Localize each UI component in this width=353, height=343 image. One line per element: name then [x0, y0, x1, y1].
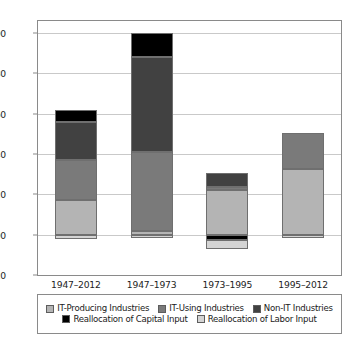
bar-group	[206, 21, 248, 275]
legend-swatch-icon	[62, 315, 70, 323]
bar-segment	[282, 133, 324, 169]
legend-swatch-icon	[197, 315, 205, 323]
chart-legend: IT-Producing IndustriesIT-Using Industri…	[37, 294, 342, 334]
legend-label: Reallocation of Capital Input	[73, 315, 187, 324]
bar-segment	[206, 187, 248, 190]
plot-frame	[37, 20, 342, 276]
legend-label: Reallocation of Labor Input	[208, 315, 317, 324]
y-tick-mark	[33, 33, 37, 34]
y-tick-mark	[33, 194, 37, 195]
bar-segment	[206, 173, 248, 187]
bar-segment	[282, 235, 324, 238]
legend-label: IT-Producing Industries	[57, 304, 149, 313]
legend-label: IT-Using Industries	[169, 304, 244, 313]
legend-row-1: IT-Producing IndustriesIT-Using Industri…	[38, 304, 341, 313]
legend-item[interactable]: IT-Using Industries	[158, 304, 244, 313]
bar-segment	[131, 57, 173, 152]
legend-item[interactable]: Non-IT Industries	[253, 304, 333, 313]
y-tick-label: 0.20	[0, 189, 6, 200]
bar-segment	[282, 169, 324, 235]
legend-swatch-icon	[46, 305, 54, 313]
bar-segment	[55, 160, 97, 200]
legend-swatch-icon	[158, 305, 166, 313]
y-tick-label: 1.00	[0, 28, 6, 39]
bar-segment	[55, 122, 97, 160]
legend-item[interactable]: Reallocation of Labor Input	[197, 315, 317, 324]
legend-item[interactable]: Reallocation of Capital Input	[62, 315, 187, 324]
y-tick-label: -0.20	[0, 270, 6, 281]
x-tick-label: 1973–1995	[203, 279, 253, 290]
bar-group	[282, 21, 324, 275]
y-tick-mark	[33, 275, 37, 276]
bar-segment	[131, 152, 173, 231]
legend-item[interactable]: IT-Producing Industries	[46, 304, 149, 313]
bar-segment	[206, 190, 248, 234]
bar-group	[131, 21, 173, 275]
x-tick-label: 1995–2012	[278, 279, 328, 290]
y-tick-mark	[33, 73, 37, 74]
bar-segment	[131, 33, 173, 57]
y-tick-mark	[33, 234, 37, 235]
bar-group	[55, 21, 97, 275]
bar-segment	[55, 110, 97, 122]
y-tick-mark	[33, 154, 37, 155]
y-tick-label: 0.40	[0, 149, 6, 160]
y-tick-label: 0.60	[0, 108, 6, 119]
bar-segment	[55, 200, 97, 234]
bar-segment	[55, 235, 97, 239]
legend-swatch-icon	[253, 305, 261, 313]
bar-segment	[206, 240, 248, 249]
legend-row-2: Reallocation of Capital InputReallocatio…	[38, 315, 341, 324]
y-tick-mark	[33, 113, 37, 114]
y-tick-label: 0.80	[0, 68, 6, 79]
y-tick-label: 0.00	[0, 229, 6, 240]
x-tick-label: 1947–1973	[127, 279, 177, 290]
x-tick-label: 1947–2012	[51, 279, 101, 290]
legend-label: Non-IT Industries	[264, 304, 333, 313]
chart-figure: IT-Producing IndustriesIT-Using Industri…	[0, 0, 353, 343]
bar-segment	[131, 235, 173, 238]
plot-area	[38, 21, 341, 275]
